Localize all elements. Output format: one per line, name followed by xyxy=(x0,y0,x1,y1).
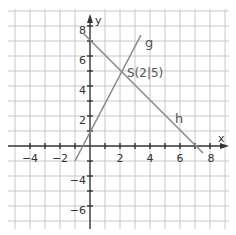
x-axis-label: x xyxy=(218,132,225,145)
y-tick-label: 6 xyxy=(79,54,86,67)
x-tick-label: 6 xyxy=(177,152,184,165)
y-axis xyxy=(87,20,93,229)
intersection-label: S(2|5) xyxy=(127,66,163,80)
y-axis-label: y xyxy=(95,14,102,27)
y-tick-labels: 8 6 4 2 −4 −6 xyxy=(70,24,86,217)
y-tick-label: 2 xyxy=(79,114,86,127)
x-tick-label: 8 xyxy=(208,152,215,165)
line-g-label: g xyxy=(145,35,153,50)
x-tick-label: 4 xyxy=(147,152,154,165)
x-axis xyxy=(8,143,224,149)
grid xyxy=(8,9,229,229)
coordinate-plot: x y −4 −2 2 4 6 8 8 6 4 2 −4 −6 g h S(2|… xyxy=(0,0,236,235)
x-tick-label: −2 xyxy=(52,152,68,165)
y-axis-arrow-icon xyxy=(87,14,93,23)
line-h xyxy=(83,33,203,153)
line-h-label: h xyxy=(175,111,183,126)
x-tick-labels: −4 −2 2 4 6 8 xyxy=(22,152,215,165)
x-tick-label: −4 xyxy=(22,152,38,165)
y-tick-label: −6 xyxy=(70,204,86,217)
y-tick-label: 4 xyxy=(79,84,86,97)
y-tick-label: −4 xyxy=(70,174,86,187)
x-tick-label: 2 xyxy=(117,152,124,165)
